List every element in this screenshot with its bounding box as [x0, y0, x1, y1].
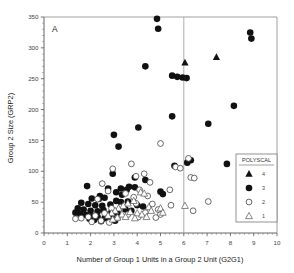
x-tick-label: 4	[135, 239, 139, 246]
data-point-filled-circle	[92, 202, 99, 209]
data-point-open-triangle	[182, 202, 189, 208]
data-point-open-circle	[186, 155, 192, 161]
data-point-filled-circle	[154, 16, 161, 23]
data-point-open-circle	[110, 166, 116, 172]
y-tick-label: 100	[28, 167, 39, 174]
x-tick-label: 0	[42, 239, 46, 246]
data-point-open-circle	[141, 171, 147, 177]
y-tick-label: 200	[28, 106, 39, 113]
data-point-open-circle	[153, 215, 159, 221]
data-point-filled-circle	[169, 113, 176, 120]
y-tick-label: 350	[28, 13, 39, 20]
y-tick-label: 300	[28, 44, 39, 51]
data-series-4	[181, 53, 220, 65]
data-points	[72, 16, 255, 226]
data-point-open-circle	[89, 219, 95, 225]
x-tick-label: 7	[205, 239, 209, 246]
data-point-open-circle	[205, 199, 211, 205]
data-point-filled-circle	[183, 75, 190, 82]
legend-entry-label: 2	[262, 199, 265, 205]
x-tick-label: 10	[274, 239, 281, 246]
data-point-open-circle	[99, 181, 105, 187]
legend-title: POLYSCAL	[242, 157, 271, 163]
x-tick-label: 8	[229, 239, 233, 246]
data-point-filled-circle	[155, 25, 162, 32]
data-point-filled-circle	[140, 203, 147, 210]
data-point-filled-circle	[205, 120, 212, 127]
data-point-open-circle	[105, 188, 111, 194]
scatter-plot-figure: 012345678910050100150200250300350 POLYSC…	[0, 0, 294, 273]
data-point-filled-circle	[85, 201, 92, 208]
legend-marker-filled-circle	[246, 185, 253, 192]
data-point-open-circle	[98, 218, 104, 224]
data-point-filled-circle	[224, 161, 231, 168]
data-point-filled-circle	[248, 35, 255, 42]
legend-entry-label: 4	[262, 171, 265, 177]
legend-box	[236, 154, 277, 222]
x-tick-label: 6	[182, 239, 186, 246]
legend-entry-label: 1	[262, 213, 265, 219]
x-tick-label: 3	[112, 239, 116, 246]
panel-label: A	[52, 24, 58, 34]
data-point-filled-circle	[160, 191, 167, 198]
y-tick-label: 50	[32, 198, 39, 205]
data-point-filled-circle	[113, 189, 120, 196]
data-point-filled-circle	[84, 183, 91, 190]
chart-legend: POLYSCAL4321	[236, 154, 277, 222]
data-point-open-circle	[133, 173, 139, 179]
x-axis-title: Number of Group 1 Units in a Group 2 Uni…	[77, 255, 244, 264]
data-point-filled-circle	[88, 195, 95, 202]
data-point-filled-circle	[142, 63, 149, 70]
x-tick-label: 2	[89, 239, 93, 246]
data-point-filled-circle	[231, 103, 238, 110]
data-point-open-circle	[95, 196, 101, 202]
data-point-open-circle	[191, 175, 197, 181]
data-point-filled-circle	[247, 29, 254, 36]
y-axis-title: Group 2 Size (GRP2)	[6, 93, 15, 163]
data-point-filled-circle	[135, 124, 142, 131]
data-point-filled-triangle	[213, 53, 220, 60]
legend-marker-open-circle	[246, 199, 252, 205]
data-point-open-circle	[73, 216, 79, 222]
x-tick-label: 5	[159, 239, 163, 246]
plot-canvas: 012345678910050100150200250300350 POLYSC…	[0, 0, 294, 273]
y-tick-label: 250	[28, 75, 39, 82]
data-point-filled-circle	[111, 132, 118, 139]
data-point-filled-circle	[78, 199, 85, 206]
data-point-filled-circle	[101, 195, 108, 202]
data-point-open-circle	[190, 208, 196, 214]
data-point-filled-triangle	[181, 59, 188, 66]
data-point-open-circle	[177, 165, 183, 171]
legend-entry-label: 3	[262, 185, 265, 191]
y-tick-label: 150	[28, 137, 39, 144]
data-point-open-circle	[78, 215, 84, 221]
data-point-open-circle	[92, 213, 98, 219]
x-tick-label: 9	[252, 239, 256, 246]
data-point-open-circle	[167, 187, 173, 193]
data-point-open-circle	[147, 179, 153, 185]
data-point-open-circle	[158, 141, 164, 147]
data-point-open-circle	[123, 191, 129, 197]
data-point-open-circle	[128, 161, 134, 167]
data-series-3	[72, 16, 255, 225]
y-tick-label: 0	[35, 229, 39, 236]
data-point-filled-circle	[115, 143, 122, 150]
data-point-open-circle	[168, 202, 174, 208]
x-tick-label: 1	[66, 239, 70, 246]
